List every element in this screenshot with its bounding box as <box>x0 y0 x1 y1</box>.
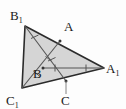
point-label-a: A <box>64 19 74 34</box>
vertex-label-b1: B1 <box>10 8 23 25</box>
geometry-figure-container: B1 A1 C1 A B C <box>0 0 126 109</box>
triangle-median-diagram: B1 A1 C1 A B C <box>0 0 126 109</box>
point-marker-b <box>42 67 45 70</box>
vertex-label-c1: C1 <box>6 93 19 109</box>
vertex-label-a1: A1 <box>106 61 119 78</box>
point-label-c: C <box>61 93 70 108</box>
point-label-b: B <box>33 66 42 81</box>
point-marker-a <box>59 40 62 43</box>
